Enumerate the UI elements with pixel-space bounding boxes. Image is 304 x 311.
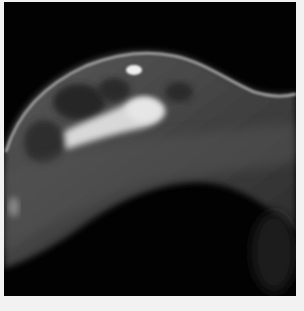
- breast-tissue-graphic: [4, 2, 296, 296]
- mri-scan-image: [4, 2, 296, 296]
- image-frame: [0, 0, 304, 311]
